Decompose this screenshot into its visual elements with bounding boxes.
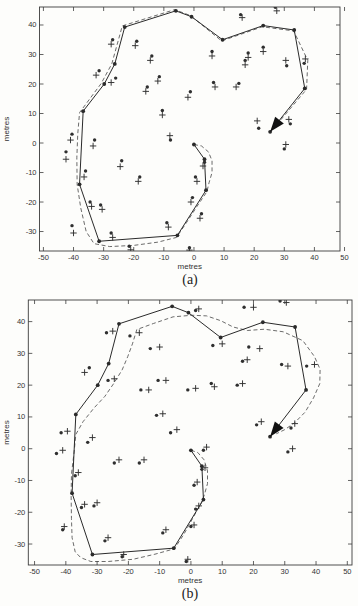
path-vertex-dot xyxy=(170,304,174,308)
path-vertex-dot xyxy=(174,9,178,13)
estimated-landmark-plus xyxy=(311,361,317,367)
true-landmark-dot xyxy=(84,169,87,172)
plot-area-a xyxy=(63,6,309,254)
true-landmark-dot xyxy=(92,504,95,507)
path-vertex-dot xyxy=(107,362,111,366)
y-tick-label: -10 xyxy=(14,476,25,485)
x-tick-label: 50 xyxy=(340,253,348,262)
true-landmark-dot xyxy=(59,431,62,434)
estimated-landmark-plus xyxy=(143,88,149,94)
estimated-landmark-plus xyxy=(188,199,194,205)
true-landmark-dot xyxy=(200,212,203,215)
path-vertex-dot xyxy=(91,553,95,557)
true-landmark-dot xyxy=(80,506,83,509)
x-tick-label: -50 xyxy=(38,253,49,262)
y-axis-label: metres xyxy=(2,420,11,444)
axis-box xyxy=(40,7,341,251)
path-vertex-dot xyxy=(102,82,106,86)
estimated-landmark-plus xyxy=(99,206,105,212)
x-tick-label: 20 xyxy=(250,253,258,262)
y-tick-label: 30 xyxy=(28,50,36,59)
true-landmark-dot xyxy=(169,138,172,141)
path-vertex-dot xyxy=(303,87,307,91)
estimated-landmark-plus xyxy=(219,341,225,347)
x-tick-label: 40 xyxy=(310,253,318,262)
estimated-landmark-plus xyxy=(254,118,260,124)
estimated-landmark-plus xyxy=(60,447,66,453)
estimated-landmark-plus xyxy=(292,420,298,426)
estimated-landmark-plus xyxy=(283,141,289,147)
panel-b: -50-40-30-20-1001020304050-30-20-1001020… xyxy=(0,297,358,606)
estimated-landmark-plus xyxy=(156,344,162,350)
y-tick-label: 0 xyxy=(21,444,25,453)
true-path-line xyxy=(80,11,305,241)
true-landmark-dot xyxy=(55,452,58,455)
true-landmark-dot xyxy=(191,196,194,199)
caption-b: (b) xyxy=(28,586,352,602)
x-axis-label: metres xyxy=(178,262,202,271)
y-tick-label: -30 xyxy=(26,227,37,236)
true-landmark-dot xyxy=(165,221,168,224)
path-vertex-dot xyxy=(219,336,223,340)
path-vertex-dot xyxy=(113,62,117,66)
path-vertex-dot xyxy=(189,448,193,452)
y-tick-label: -10 xyxy=(26,168,37,177)
estimated-landmark-plus xyxy=(81,174,87,180)
estimated-landmark-plus xyxy=(257,345,263,351)
panel-a: -50-40-30-20-1001020304050-30-20-1001020… xyxy=(0,0,358,297)
estimated-landmark-plus xyxy=(242,62,248,68)
estimated-landmark-plus xyxy=(212,84,218,90)
true-landmark-dot xyxy=(255,423,258,426)
y-tick-label: -20 xyxy=(26,198,37,207)
estimated-landmark-plus xyxy=(63,156,69,162)
y-tick-label: 20 xyxy=(28,80,36,89)
plot-a: -50-40-30-20-1001020304050-30-20-1001020… xyxy=(0,0,358,297)
estimated-landmark-plus xyxy=(89,434,95,440)
true-landmark-dot xyxy=(262,45,265,48)
path-vertex-dot xyxy=(123,25,127,29)
true-landmark-dot xyxy=(135,40,138,43)
x-tick-label: -40 xyxy=(60,567,71,576)
path-vertex-dot xyxy=(74,412,78,416)
x-tick-label: -20 xyxy=(123,567,134,576)
true-landmark-dot xyxy=(146,85,149,88)
true-landmark-dot xyxy=(114,76,117,79)
true-landmark-dot xyxy=(86,441,89,444)
x-tick-label: 50 xyxy=(343,567,351,576)
plot-area-b xyxy=(55,299,320,563)
true-landmark-dot xyxy=(70,132,73,135)
true-landmark-dot xyxy=(156,379,159,382)
estimated-landmark-plus xyxy=(258,418,264,424)
true-landmark-dot xyxy=(242,306,245,309)
x-tick-label: 0 xyxy=(192,253,196,262)
estimated-landmark-plus xyxy=(110,328,116,334)
x-tick-label: -40 xyxy=(68,253,79,262)
estimated-landmark-plus xyxy=(174,426,180,432)
path-vertex-dot xyxy=(172,546,176,550)
y-tick-label: -30 xyxy=(14,540,25,549)
estimated-landmark-plus xyxy=(260,48,266,54)
estimated-landmark-plus xyxy=(239,380,245,386)
x-tick-label: 0 xyxy=(189,567,193,576)
estimated-landmark-plus xyxy=(135,178,141,184)
estimated-landmark-plus xyxy=(283,57,289,63)
true-landmark-dot xyxy=(88,366,91,369)
true-landmark-dot xyxy=(289,122,292,125)
true-landmark-dot xyxy=(70,224,73,227)
path-vertex-dot xyxy=(81,109,85,113)
true-landmark-dot xyxy=(99,203,102,206)
x-tick-label: 20 xyxy=(249,567,257,576)
estimated-landmark-plus xyxy=(147,57,153,63)
x-tick-label: 30 xyxy=(280,253,288,262)
y-tick-label: -20 xyxy=(14,508,25,517)
x-tick-label: 30 xyxy=(281,567,289,576)
estimated-landmark-plus xyxy=(167,132,173,138)
path-vertex-dot xyxy=(292,28,296,32)
estimated-landmark-plus xyxy=(67,137,73,143)
estimated-landmark-plus xyxy=(185,94,191,100)
path-vertex-dot xyxy=(221,38,225,42)
true-landmark-dot xyxy=(139,388,142,391)
true-landmark-dot xyxy=(280,363,283,366)
estimated-landmark-plus xyxy=(289,446,295,452)
estimated-landmark-plus xyxy=(244,357,250,363)
